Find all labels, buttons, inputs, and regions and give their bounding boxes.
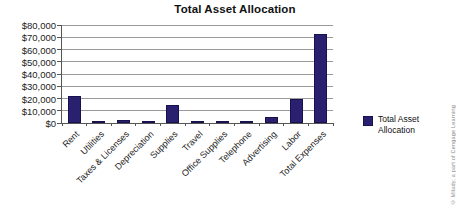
x-axis-tick: [234, 123, 235, 126]
y-axis-tick: [57, 25, 61, 26]
x-axis-tick: [86, 123, 87, 126]
total-asset-allocation-chart: Total Asset Allocation RentUtilitiesTaxe…: [0, 0, 457, 217]
y-axis-tick: [57, 123, 61, 124]
y-axis-label-50000: $50,000: [0, 57, 56, 68]
y-axis-label-60000: $60,000: [0, 45, 56, 56]
y-axis-tick: [57, 61, 61, 62]
bar-depreciation: [142, 121, 155, 123]
bar-taxes-licenses: [117, 120, 130, 123]
y-axis-tick: [57, 110, 61, 111]
bar-advertising: [265, 117, 278, 123]
y-axis-label-20000: $20,000: [0, 94, 56, 105]
x-axis-tick: [333, 123, 334, 126]
x-axis-tick: [308, 123, 309, 126]
gridline-70000: [62, 37, 333, 38]
x-axis-tick: [209, 123, 210, 126]
legend-label: Total Asset Allocation: [378, 114, 440, 136]
y-axis-tick: [57, 37, 61, 38]
y-axis-label-40000: $40,000: [0, 69, 56, 80]
x-axis-tick: [160, 123, 161, 126]
bar-labor: [290, 99, 303, 124]
x-axis-tick: [185, 123, 186, 126]
bar-supplies: [166, 105, 179, 123]
x-axis-label-rent: Rent: [61, 129, 82, 150]
y-axis-label-80000: $80,000: [0, 20, 56, 31]
gridline-30000: [62, 86, 333, 87]
x-axis-tick: [62, 123, 63, 126]
bar-office-supplies: [216, 121, 229, 123]
gridline-40000: [62, 74, 333, 75]
legend-swatch-icon: [363, 116, 373, 126]
y-axis-tick: [57, 74, 61, 75]
legend: Total Asset Allocation: [363, 114, 449, 136]
x-axis-tick: [259, 123, 260, 126]
bar-total-expenses: [314, 34, 327, 123]
x-axis-tick: [111, 123, 112, 126]
x-axis-tick: [135, 123, 136, 126]
gridline-80000: [62, 25, 333, 26]
y-axis-tick: [57, 49, 61, 50]
y-axis-label-10000: $10,000: [0, 106, 56, 117]
bar-telephone: [240, 121, 253, 123]
y-axis-label-0: $0: [0, 118, 56, 129]
y-axis-tick: [57, 98, 61, 99]
y-axis-label-70000: $70,000: [0, 32, 56, 43]
bar-rent: [68, 96, 81, 123]
copyright-text: © Milady, a part of Cengage Learning: [450, 105, 456, 205]
y-axis-tick: [57, 86, 61, 87]
gridline-50000: [62, 61, 333, 62]
chart-title: Total Asset Allocation: [20, 3, 450, 15]
bar-utilities: [92, 121, 105, 123]
gridline-60000: [62, 49, 333, 50]
x-axis-tick: [283, 123, 284, 126]
y-axis-label-30000: $30,000: [0, 81, 56, 92]
bar-travel: [191, 121, 204, 123]
plot-area: RentUtilitiesTaxes & LicensesDepreciatio…: [61, 25, 333, 124]
